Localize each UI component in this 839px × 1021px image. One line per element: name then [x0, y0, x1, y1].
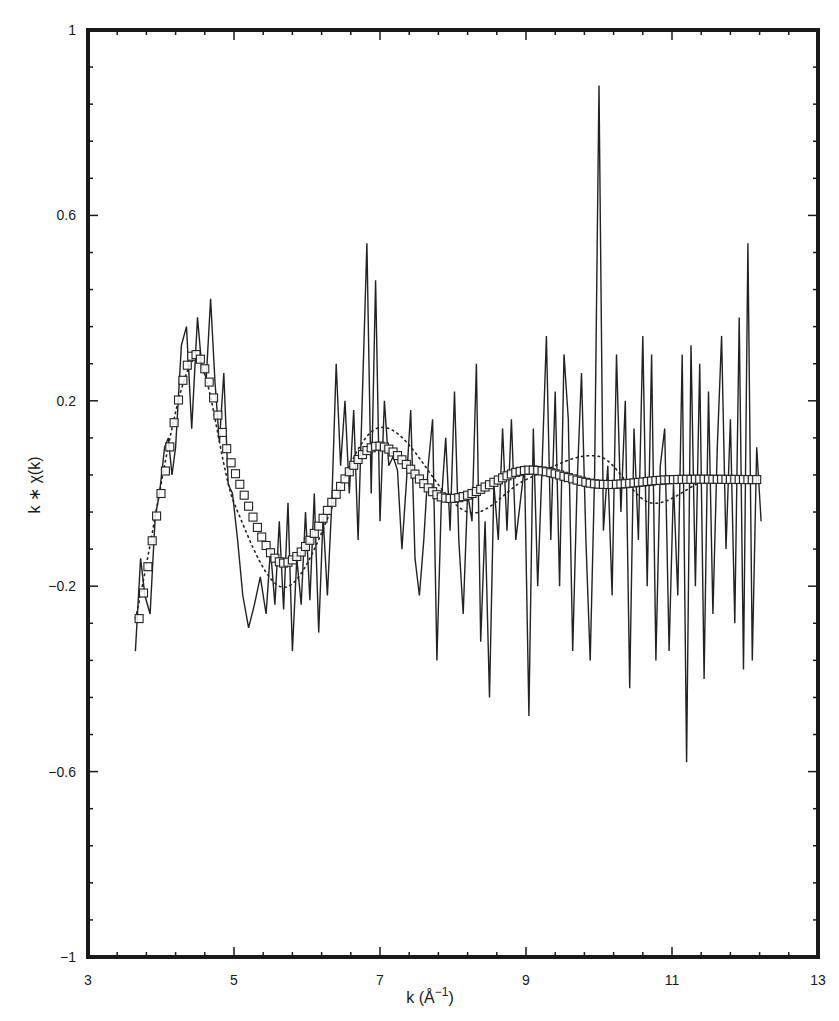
y-tick-label: 0.2 — [57, 393, 77, 409]
y-tick-label: 0.6 — [57, 207, 77, 223]
chart-canvas: 3579111310.60.2−0.2−0.6−1 k (Å−1) k ∗ χ(… — [0, 0, 839, 1021]
fit-square-marker — [218, 428, 226, 436]
series-layer — [135, 86, 761, 763]
fit-square-marker — [337, 482, 345, 490]
fit-square-marker — [253, 523, 261, 531]
ticks-layer — [88, 30, 818, 957]
fit-square-marker — [135, 615, 143, 623]
x-tick-label: 9 — [522, 972, 530, 988]
fit-square-marker — [210, 394, 218, 402]
fit-square-marker — [166, 443, 174, 451]
fit-square-marker — [245, 502, 253, 510]
x-tick-label: 5 — [230, 972, 238, 988]
fit-square-marker — [148, 537, 156, 545]
x-tick-label: 3 — [84, 972, 92, 988]
fit-square-marker — [144, 563, 152, 571]
fit-square-marker — [179, 376, 187, 384]
y-tick-label: −0.6 — [48, 764, 76, 780]
fit-square-marker — [319, 514, 327, 522]
fit-square-marker — [157, 490, 165, 498]
fit-square-marker — [232, 470, 240, 478]
fit-square-marker — [332, 490, 340, 498]
fit-square-marker — [223, 445, 231, 453]
fit-square-marker — [328, 498, 336, 506]
fit-square-marker — [183, 361, 191, 369]
y-tick-label: 1 — [68, 22, 76, 38]
fit-square-marker — [214, 411, 222, 419]
fit-square-marker — [161, 467, 169, 475]
fit-square-marker — [249, 513, 257, 521]
y-tick-label: −1 — [60, 949, 76, 965]
plot-frame — [88, 30, 818, 957]
x-axis-label: k (Å−1) — [406, 985, 453, 1006]
fit-square-marker — [323, 506, 331, 514]
fit-square-marker — [205, 378, 213, 386]
x-tick-label: 13 — [810, 972, 826, 988]
fit-square-marker — [196, 355, 204, 363]
y-tick-label: −0.2 — [48, 578, 76, 594]
fit-square-marker — [140, 589, 148, 597]
fit-square-marker — [175, 396, 183, 404]
fit-square-marker — [315, 522, 323, 530]
fit-square-marker — [170, 419, 178, 427]
x-tick-label: 11 — [665, 972, 680, 988]
fit-square-marker — [201, 365, 209, 373]
fit-square-marker — [227, 459, 235, 467]
fit-square-marker — [240, 491, 248, 499]
tick-labels: 3579111310.60.2−0.2−0.6−1 — [48, 22, 826, 988]
fit-square-marker — [236, 480, 244, 488]
fit-square-marker — [753, 476, 761, 484]
fit-square-marker — [153, 512, 161, 520]
fit-square-marker — [258, 533, 266, 541]
x-tick-label: 7 — [376, 972, 384, 988]
y-axis-label: k ∗ χ(k) — [26, 457, 43, 514]
experimental-data-line — [135, 86, 761, 763]
